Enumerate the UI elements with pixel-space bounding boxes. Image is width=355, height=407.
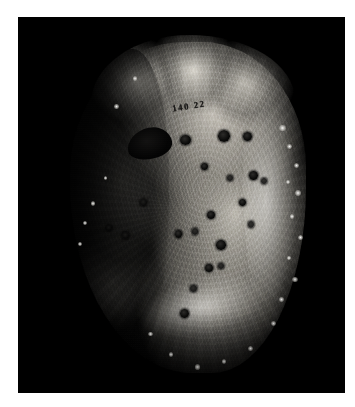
photo-frame: 140 22 (18, 17, 345, 393)
spine-speck (222, 359, 226, 364)
spine-speck (114, 104, 118, 109)
specimen-subject: 140 22 (54, 35, 316, 380)
surface-pit (239, 199, 246, 206)
spine-speck (148, 332, 152, 336)
surface-pit (248, 221, 254, 228)
spine-speck (133, 76, 137, 80)
spine-speck (279, 297, 283, 301)
spine-speck (287, 144, 292, 149)
spine-speck (248, 346, 253, 352)
surface-pit (249, 171, 257, 179)
spine-speck (292, 277, 298, 283)
screenshot-root: 140 22 (0, 0, 355, 407)
spine-speck (91, 201, 96, 206)
spine-speck (298, 235, 303, 240)
surface-pit (216, 240, 225, 250)
surface-pit (207, 211, 215, 219)
spine-speck (279, 125, 285, 132)
surface-pit (180, 135, 191, 145)
spine-speck (169, 352, 173, 356)
surface-pit (205, 264, 213, 272)
spine-speck (294, 163, 299, 169)
surface-pit (218, 130, 230, 142)
spine-speck (287, 256, 291, 260)
surface-pit (243, 132, 252, 141)
